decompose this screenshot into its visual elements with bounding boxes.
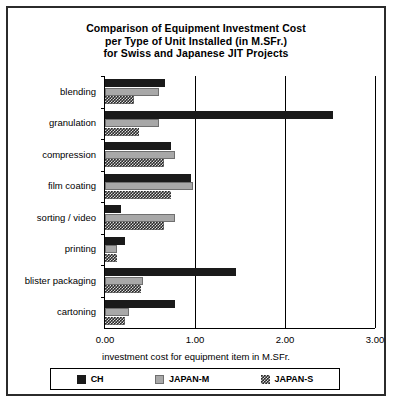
bar-ch-granulation bbox=[105, 111, 333, 119]
legend-swatch-icon bbox=[77, 375, 86, 384]
plot-area: 0.001.002.003.00blendinggranulationcompr… bbox=[104, 76, 375, 329]
bar-japan-s-sorting-video bbox=[105, 222, 164, 230]
y-axis-tick bbox=[101, 202, 105, 203]
legend-entry-ch[interactable]: CH bbox=[77, 374, 104, 384]
gridline bbox=[375, 76, 376, 328]
y-axis-tick bbox=[101, 265, 105, 266]
bar-ch-cartoning bbox=[105, 300, 175, 308]
bar-ch-sorting-video bbox=[105, 205, 121, 213]
bar-group: film coating bbox=[105, 171, 375, 203]
category-label: granulation bbox=[0, 117, 96, 128]
bar-japan-m-cartoning bbox=[105, 308, 129, 316]
bar-group: cartoning bbox=[105, 297, 375, 329]
bar-group: granulation bbox=[105, 108, 375, 140]
bar-japan-m-blister-packaging bbox=[105, 277, 143, 285]
chart-title-line-2: per Type of Unit Installed (in M.SFr.) bbox=[8, 35, 384, 48]
bar-japan-s-blister-packaging bbox=[105, 285, 141, 293]
y-axis-tick bbox=[101, 108, 105, 109]
bar-japan-s-cartoning bbox=[105, 317, 125, 325]
legend-entry-japan-m[interactable]: JAPAN-M bbox=[155, 374, 209, 384]
bar-group: compression bbox=[105, 139, 375, 171]
bar-group: sorting / video bbox=[105, 202, 375, 234]
y-axis-tick bbox=[101, 76, 105, 77]
bar-japan-s-film-coating bbox=[105, 191, 171, 199]
category-label: film coating bbox=[0, 180, 96, 191]
x-tick-label: 1.00 bbox=[172, 334, 218, 345]
bar-group: blending bbox=[105, 76, 375, 108]
bar-japan-m-sorting-video bbox=[105, 214, 175, 222]
chart-title: Comparison of Equipment Investment Cost … bbox=[8, 22, 384, 60]
bar-japan-s-blending bbox=[105, 96, 134, 104]
category-label: blister packaging bbox=[0, 275, 96, 286]
bar-ch-compression bbox=[105, 142, 171, 150]
y-axis-tick bbox=[101, 297, 105, 298]
chart-frame: Comparison of Equipment Investment Cost … bbox=[6, 6, 386, 396]
category-label: cartoning bbox=[0, 306, 96, 317]
y-axis-tick bbox=[101, 234, 105, 235]
y-axis-tick bbox=[101, 139, 105, 140]
bar-ch-printing bbox=[105, 237, 125, 245]
category-label: blending bbox=[0, 86, 96, 97]
category-label: sorting / video bbox=[0, 212, 96, 223]
legend-label: CH bbox=[91, 374, 104, 384]
y-axis-tick bbox=[101, 171, 105, 172]
legend-label: JAPAN-S bbox=[275, 374, 314, 384]
category-label: printing bbox=[0, 243, 96, 254]
bar-japan-s-granulation bbox=[105, 128, 139, 136]
bar-ch-blister-packaging bbox=[105, 268, 236, 276]
bar-japan-m-granulation bbox=[105, 119, 159, 127]
chart-title-line-3: for Swiss and Japanese JIT Projects bbox=[8, 47, 384, 60]
bar-japan-s-printing bbox=[105, 254, 117, 262]
legend-swatch-icon bbox=[155, 375, 164, 384]
bar-group: blister packaging bbox=[105, 265, 375, 297]
legend-swatch-icon bbox=[261, 375, 270, 384]
x-tick-label: 0.00 bbox=[82, 334, 128, 345]
x-tick-label: 3.00 bbox=[352, 334, 394, 345]
x-axis-title: investment cost for equipment item in M.… bbox=[8, 351, 384, 362]
bar-ch-film-coating bbox=[105, 174, 191, 182]
bar-ch-blending bbox=[105, 79, 165, 87]
bar-japan-m-blending bbox=[105, 88, 159, 96]
chart-title-line-1: Comparison of Equipment Investment Cost bbox=[8, 22, 384, 35]
x-tick-label: 2.00 bbox=[262, 334, 308, 345]
bar-japan-m-printing bbox=[105, 245, 117, 253]
category-label: compression bbox=[0, 149, 96, 160]
bar-japan-m-film-coating bbox=[105, 182, 193, 190]
bar-japan-m-compression bbox=[105, 151, 175, 159]
legend-entry-japan-s[interactable]: JAPAN-S bbox=[261, 374, 314, 384]
bar-japan-s-compression bbox=[105, 159, 164, 167]
bar-group: printing bbox=[105, 234, 375, 266]
legend-label: JAPAN-M bbox=[169, 374, 209, 384]
chart-legend: CHJAPAN-MJAPAN-S bbox=[50, 368, 340, 390]
